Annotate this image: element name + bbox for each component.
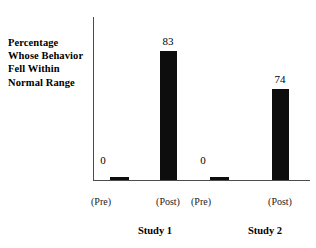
group-label-study-2: Study 2 bbox=[230, 224, 300, 237]
y-axis-label-line-4: Normal Range bbox=[8, 76, 90, 89]
bar-study1-pre bbox=[110, 177, 129, 180]
value-label-study2-post: 74 bbox=[260, 74, 300, 85]
bar-study1-post bbox=[160, 51, 177, 180]
value-label-study1-post: 83 bbox=[148, 36, 188, 47]
y-axis-label-line-3: Fell Within bbox=[8, 62, 90, 75]
x-tick-label-study2-post: (Post) bbox=[255, 196, 305, 208]
bar-chart: Percentage Whose Behavior Fell Within No… bbox=[0, 0, 316, 248]
y-axis-label-line-1: Percentage bbox=[8, 36, 90, 49]
value-label-study1-pre: 0 bbox=[83, 155, 123, 166]
bar-study2-pre bbox=[210, 177, 229, 180]
y-axis-label-line-2: Whose Behavior bbox=[8, 49, 90, 62]
y-axis-label: Percentage Whose Behavior Fell Within No… bbox=[8, 36, 90, 89]
value-label-study2-pre: 0 bbox=[183, 155, 223, 166]
group-label-study-1: Study 1 bbox=[120, 224, 190, 237]
x-tick-label-study2-pre: (Pre) bbox=[176, 196, 226, 208]
x-tick-label-study1-pre: (Pre) bbox=[76, 196, 126, 208]
bar-study2-post bbox=[272, 89, 289, 180]
